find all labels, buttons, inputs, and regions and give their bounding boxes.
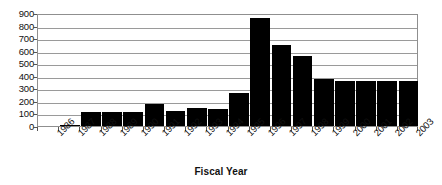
x-axis-tick-label: 1998 [309, 131, 316, 138]
plot-area [37, 14, 418, 127]
x-axis-tick-label: 1990 [139, 131, 146, 138]
x-axis-title: Fiscal Year [0, 166, 442, 177]
y-axis-tick-label: 500 [0, 59, 34, 69]
bar [293, 56, 313, 126]
x-axis-tick-label: 1993 [203, 131, 210, 138]
y-axis-tick-label: 0 [0, 122, 34, 132]
bar [250, 18, 270, 126]
x-axis-tick-label: 1996 [266, 131, 273, 138]
x-axis-tick-label: 1989 [118, 131, 125, 138]
y-axis-tick-label: 700 [0, 34, 34, 44]
y-axis-tick-label: 300 [0, 84, 34, 94]
x-axis-tick-label: 1986 [55, 131, 62, 138]
y-axis-tick-labels: 0100200300400500600700800900 [0, 9, 34, 129]
y-axis-tick-label: 900 [0, 9, 34, 19]
x-axis-tick-labels: 1986198719881989199019911992199319941995… [37, 131, 418, 165]
y-axis-tick-label: 600 [0, 47, 34, 57]
y-axis-tick-label: 100 [0, 109, 34, 119]
x-axis-tick-label: 2003 [414, 131, 421, 138]
bar-chart: 0100200300400500600700800900 19861987198… [0, 0, 442, 185]
x-axis-tick-label: 1992 [182, 131, 189, 138]
y-axis-tick-label: 200 [0, 97, 34, 107]
x-axis-tick-label: 2001 [372, 131, 379, 138]
x-axis-tick-label: 1995 [245, 131, 252, 138]
bars-layer [38, 15, 417, 126]
x-axis-tick-label: 2002 [393, 131, 400, 138]
y-axis-tick-label: 800 [0, 22, 34, 32]
x-axis-tick-label: 1988 [97, 131, 104, 138]
x-axis-tick-label: 2000 [351, 131, 358, 138]
x-axis-tick-label: 1987 [76, 131, 83, 138]
x-axis-tick-label: 1997 [287, 131, 294, 138]
x-axis-tick-label: 1999 [330, 131, 337, 138]
bar [272, 45, 292, 126]
x-axis-tick-label: 1994 [224, 131, 231, 138]
x-axis-tick-label: 1991 [160, 131, 167, 138]
y-axis-tick-label: 400 [0, 72, 34, 82]
